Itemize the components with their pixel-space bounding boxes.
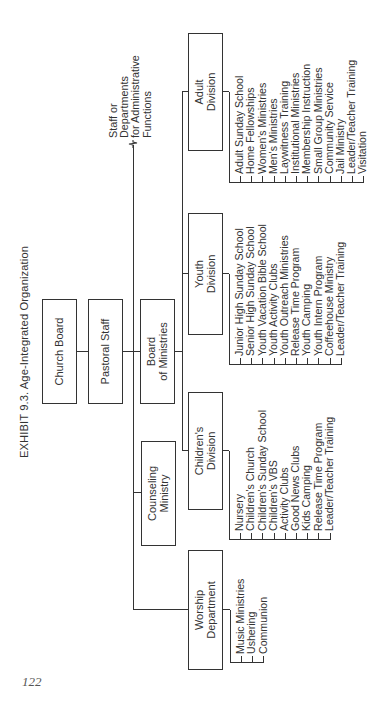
bracket-tick bbox=[363, 176, 364, 183]
program-list-item: Membership Instruction bbox=[301, 64, 312, 174]
staff-note: Staff or Departments for Administrative … bbox=[108, 55, 153, 138]
staff-note-line: for Administrative bbox=[130, 55, 141, 138]
rotated-chart-page: EXHIBIT 9.3. Age-Integrated Organization… bbox=[0, 0, 389, 717]
bracket-tick bbox=[285, 533, 286, 540]
division-spine-line bbox=[182, 92, 183, 451]
youth-line2: Division bbox=[206, 255, 218, 294]
church-board-label: Church Board bbox=[54, 318, 66, 386]
program-list-item: Ushering bbox=[246, 612, 257, 654]
bracket-tick bbox=[296, 533, 297, 540]
connector-board-divisions bbox=[174, 351, 182, 352]
bracket-tick bbox=[296, 358, 297, 365]
youth-stub bbox=[222, 273, 229, 274]
exhibit-title: EXHIBIT 9.3. Age-Integrated Organization bbox=[18, 237, 30, 467]
bracket-tick bbox=[274, 176, 275, 183]
board-of-ministries-line2: of Ministries bbox=[158, 322, 170, 381]
adult-stub bbox=[222, 91, 229, 92]
bracket-tick bbox=[341, 176, 342, 183]
bracket-tick bbox=[307, 533, 308, 540]
adult-line1: Adult bbox=[194, 79, 206, 104]
bracket-tick bbox=[274, 533, 275, 540]
counseling-line1: Counseling bbox=[147, 466, 159, 521]
youth-bracket-stem bbox=[229, 274, 230, 365]
program-list-item: Communion bbox=[258, 597, 269, 654]
children-line2: Division bbox=[206, 432, 218, 471]
adult-bracket-stem bbox=[229, 92, 230, 183]
children-line1: Children's bbox=[194, 427, 206, 476]
page-number: 122 bbox=[22, 674, 42, 690]
main-spine-line bbox=[133, 145, 134, 610]
program-list-item: Children's Church bbox=[245, 447, 256, 531]
adult-division-box: Adult Division bbox=[188, 33, 223, 151]
connector-church-pastoral bbox=[76, 351, 88, 352]
program-list-item: Leader/Teacher Training bbox=[335, 242, 346, 356]
worship-bracket-line bbox=[230, 662, 263, 663]
adult-line2: Division bbox=[206, 73, 218, 112]
bracket-tick bbox=[240, 176, 241, 183]
children-bracket-stem bbox=[229, 451, 230, 540]
worship-stub bbox=[222, 609, 230, 610]
bracket-tick bbox=[285, 176, 286, 183]
connector-pastoral-board bbox=[122, 351, 140, 352]
worship-department-box: Worship Department bbox=[188, 550, 223, 670]
program-list-item: Youth Camping bbox=[301, 284, 312, 356]
children-stub bbox=[222, 450, 229, 451]
program-list-item: Leader/Teacher Training bbox=[324, 417, 335, 531]
bracket-tick bbox=[352, 176, 353, 183]
bracket-tick bbox=[251, 358, 252, 365]
program-list-item: Kids Camping bbox=[301, 465, 312, 531]
youth-line1: Youth bbox=[194, 260, 206, 288]
bracket-tick bbox=[307, 176, 308, 183]
counseling-line2: Ministry bbox=[159, 475, 171, 513]
church-board-box: Church Board bbox=[42, 299, 77, 404]
break-squiggle-icon bbox=[127, 139, 139, 149]
program-list-item: Senior High Sunday School bbox=[245, 226, 256, 356]
staff-note-line: Functions bbox=[142, 55, 153, 138]
bracket-tick bbox=[318, 176, 319, 183]
bracket-tick bbox=[262, 176, 263, 183]
children-bracket-line bbox=[229, 539, 330, 540]
bracket-tick bbox=[240, 358, 241, 365]
worship-bracket-stem bbox=[230, 610, 231, 663]
counseling-ministry-box: Counseling Ministry bbox=[141, 441, 176, 546]
program-list-item: Home Fellowships bbox=[245, 87, 256, 174]
board-of-ministries-line1: Board bbox=[146, 337, 158, 366]
bracket-tick bbox=[330, 176, 331, 183]
bracket-tick bbox=[262, 533, 263, 540]
worship-line2: Department bbox=[206, 581, 218, 638]
bracket-tick bbox=[330, 533, 331, 540]
bracket-tick bbox=[251, 176, 252, 183]
pastoral-staff-box: Pastoral Staff bbox=[88, 299, 123, 404]
bracket-tick bbox=[341, 358, 342, 365]
board-of-ministries-box: Board of Ministries bbox=[140, 299, 175, 404]
bracket-tick bbox=[296, 176, 297, 183]
connector-counseling bbox=[133, 492, 141, 493]
bracket-tick bbox=[252, 656, 253, 663]
youth-division-box: Youth Division bbox=[188, 213, 223, 335]
pastoral-staff-label: Pastoral Staff bbox=[100, 319, 112, 385]
bracket-tick bbox=[274, 358, 275, 365]
bracket-tick bbox=[240, 533, 241, 540]
bracket-tick bbox=[318, 533, 319, 540]
childrens-division-box: Children's Division bbox=[188, 392, 223, 510]
bracket-tick bbox=[241, 656, 242, 663]
bracket-tick bbox=[251, 533, 252, 540]
bracket-tick bbox=[330, 358, 331, 365]
program-list-item: Visitation bbox=[357, 131, 368, 174]
worship-line1: Worship bbox=[194, 590, 206, 630]
bracket-tick bbox=[262, 358, 263, 365]
bracket-tick bbox=[307, 358, 308, 365]
connector-worship bbox=[133, 609, 188, 610]
bracket-tick bbox=[285, 358, 286, 365]
bracket-tick bbox=[263, 656, 264, 663]
bracket-tick bbox=[318, 358, 319, 365]
